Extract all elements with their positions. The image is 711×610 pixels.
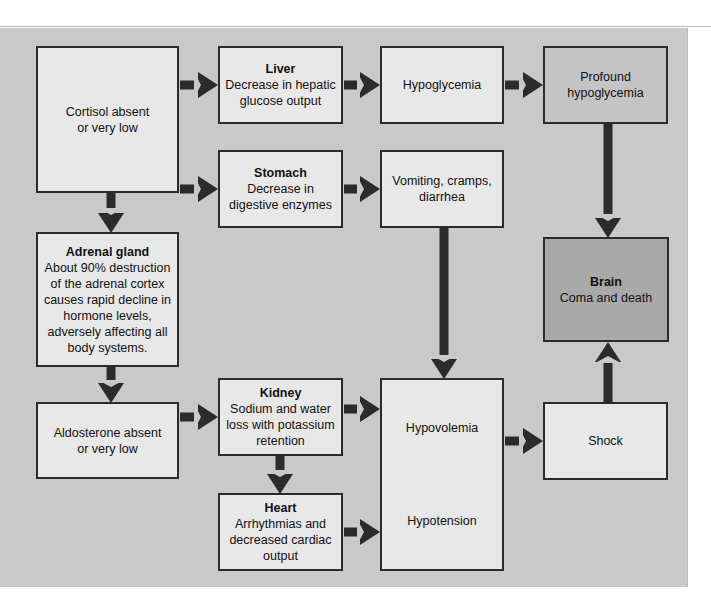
node-hypovolemia-hypotension: Hypovolemia Hypotension [380, 378, 504, 571]
node-adrenal-gland-body: About 90% destruction of the adrenal cor… [44, 260, 171, 356]
node-profound-hypoglycemia-body: Profound hypoglycemia [567, 69, 643, 101]
arrow-head [198, 404, 218, 430]
arrow-head [431, 359, 457, 379]
arrow-cortisol-to-adrenal [98, 193, 124, 233]
node-liver-title: Liver [266, 61, 296, 77]
arrow-profound-to-brain [595, 124, 621, 238]
node-cortisol-body: Cortisol absent or very low [66, 104, 149, 136]
arrow-notch [194, 176, 201, 202]
arrow-shaft [604, 360, 613, 403]
arrow-notch [519, 428, 526, 454]
node-profound-hypoglycemia: Profound hypoglycemia [543, 46, 668, 124]
arrow-notch [194, 72, 201, 98]
arrow-vomiting-to-hypovolemia [431, 228, 457, 379]
arrow-shock-to-brain [595, 342, 621, 403]
node-shock-body: Shock [588, 433, 623, 449]
arrow-notch [431, 355, 457, 362]
arrow-head [523, 72, 543, 98]
arrow-notch [98, 380, 124, 387]
arrow-shaft [604, 124, 613, 220]
node-hypoglycemia: Hypoglycemia [380, 46, 504, 124]
node-brain: Brain Coma and death [543, 237, 669, 342]
node-shock: Shock [543, 402, 668, 480]
node-liver: Liver Decrease in hepatic glucose output [218, 46, 343, 124]
node-brain-body: Coma and death [560, 290, 652, 306]
node-aldosterone: Aldosterone absent or very low [36, 402, 179, 479]
node-adrenal-gland: Adrenal gland About 90% destruction of t… [36, 232, 179, 367]
arrow-notch [357, 176, 364, 202]
flowchart-panel: Cortisol absent or very low Liver Decrea… [0, 28, 688, 587]
arrow-head [523, 428, 543, 454]
node-kidney-title: Kidney [260, 385, 302, 401]
arrow-notch [519, 72, 526, 98]
node-hypotension-label: Hypotension [407, 513, 477, 529]
arrow-head [198, 72, 218, 98]
node-hypovolemia-label: Hypovolemia [406, 420, 478, 436]
arrow-shaft [440, 228, 449, 361]
node-adrenal-gland-title: Adrenal gland [66, 244, 149, 260]
arrow-notch [595, 214, 621, 221]
node-kidney: Kidney Sodium and water loss with potass… [218, 378, 343, 456]
node-stomach: Stomach Decrease in digestive enzymes [218, 150, 343, 228]
arrow-head [595, 218, 621, 238]
node-heart-title: Heart [265, 500, 297, 516]
node-liver-body: Decrease in hepatic glucose output [225, 77, 335, 109]
node-stomach-body: Decrease in digestive enzymes [229, 181, 332, 213]
arrow-kidney-to-heart [267, 456, 293, 494]
arrow-notch [98, 208, 124, 215]
node-heart: Heart Arrhythmias and decreased cardiac … [218, 493, 343, 571]
arrow-notch [267, 470, 293, 477]
figure-page: Cortisol absent or very low Liver Decrea… [0, 0, 711, 610]
node-vomiting-body: Vomiting, cramps, diarrhea [392, 173, 491, 205]
arrow-head [98, 213, 124, 233]
arrow-head [267, 474, 293, 494]
page-top-rule [0, 26, 711, 27]
arrow-adrenal-to-aldosterone [98, 367, 124, 403]
node-heart-body: Arrhythmias and decreased cardiac output [229, 516, 331, 564]
node-aldosterone-body: Aldosterone absent or very low [54, 425, 162, 457]
node-brain-title: Brain [590, 274, 622, 290]
arrow-notch [194, 404, 201, 430]
node-stomach-title: Stomach [254, 165, 307, 181]
arrow-notch [357, 519, 364, 545]
arrow-notch [595, 356, 621, 363]
node-hypoglycemia-body: Hypoglycemia [403, 77, 482, 93]
node-kidney-body: Sodium and water loss with potassium ret… [226, 401, 334, 449]
arrow-notch [357, 72, 364, 98]
node-cortisol: Cortisol absent or very low [36, 46, 179, 193]
node-vomiting: Vomiting, cramps, diarrhea [380, 150, 504, 228]
arrow-notch [357, 396, 364, 422]
arrow-head [198, 176, 218, 202]
